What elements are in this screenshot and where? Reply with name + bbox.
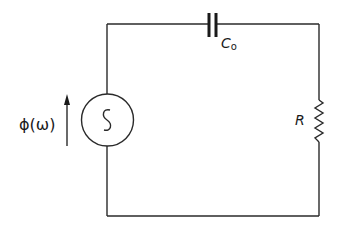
resistor-symbol	[315, 100, 323, 142]
capacitor-symbol	[209, 13, 216, 37]
capacitor-label-main: C	[221, 35, 231, 51]
circuit-diagram	[0, 0, 337, 228]
ac-source-symbol	[82, 94, 134, 146]
capacitor-label-subscript: o	[231, 41, 237, 52]
arrow-up-icon	[64, 94, 70, 146]
source-label: ϕ(ω)	[19, 117, 55, 133]
capacitor-label: Co	[221, 36, 237, 52]
resistor-label: R	[295, 113, 305, 127]
